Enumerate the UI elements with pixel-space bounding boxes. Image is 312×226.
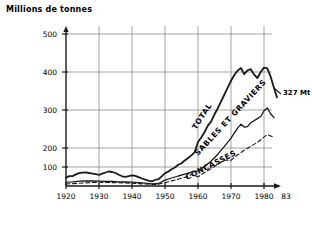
y-tick-label-200: 200 (43, 144, 58, 153)
quarry-production-line-chart: Millions de tonnes 500 400 300 200 100 1… (0, 0, 312, 226)
x-end-label-83: 83 (281, 192, 291, 201)
y-axis-title: Millions de tonnes (6, 5, 92, 14)
y-tick-label-500: 500 (43, 30, 58, 39)
x-tick-label-1940: 1940 (122, 192, 141, 201)
x-tick-label-1980: 1980 (254, 192, 273, 201)
y-tick-label-300: 300 (43, 106, 58, 115)
y-tick-label-100: 100 (43, 163, 58, 172)
y-tick-label-400: 400 (43, 68, 58, 77)
x-tick-label-1920: 1920 (56, 192, 75, 201)
annotation-327-mt: 327 Mt (283, 89, 311, 97)
chart-container: Millions de tonnes 500 400 300 200 100 1… (0, 0, 312, 226)
x-tick-label-1960: 1960 (188, 192, 207, 201)
x-tick-label-1970: 1970 (221, 192, 240, 201)
x-tick-label-1930: 1930 (89, 192, 108, 201)
x-tick-label-1950: 1950 (155, 192, 174, 201)
